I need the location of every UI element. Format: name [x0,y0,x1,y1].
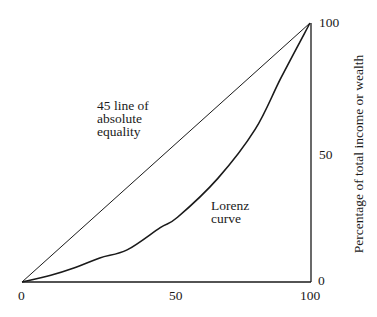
x-tick-50: 50 [169,289,183,303]
y-tick-50: 50 [319,148,333,162]
x-tick-100: 100 [300,289,320,303]
equality-line [22,23,310,282]
lorenz-curve-label: Lorenz curve [211,199,249,225]
y-axis-label: Percentage of total income or wealth [351,49,367,259]
equality-line-label: 45 line of absolute equality [97,99,149,138]
lorenz-label-line-2: curve [211,212,249,225]
y-tick-0: 0 [318,274,325,288]
y-tick-100: 100 [319,16,339,30]
equality-label-line-3: equality [97,125,149,138]
x-tick-0: 0 [18,289,25,303]
